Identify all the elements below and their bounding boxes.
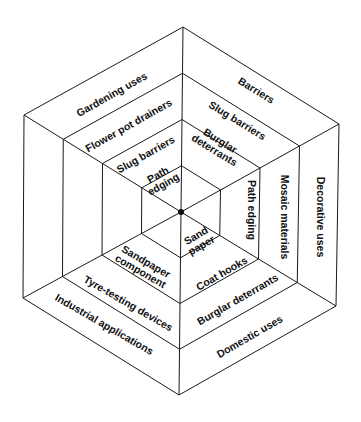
label-domestic-uses: Domestic uses	[214, 312, 284, 360]
label-decorative-uses: Decorative uses	[315, 177, 327, 258]
label-burglar-deterrants-top: Burglardeterrants	[190, 122, 246, 169]
hexagon-uses-diagram: Gardening usesFlower pot drainersSlug ba…	[0, 0, 361, 422]
label-gardening-uses: Gardening uses	[74, 69, 149, 119]
label-sandpaper-component: Sandpapercomponent	[113, 242, 174, 290]
label-path-edging-right: Path edging	[246, 180, 258, 240]
label-sand-paper: Sandpaper	[180, 223, 216, 257]
label-path-edging-inner: Pathedging	[140, 160, 181, 197]
label-layer: Gardening usesFlower pot drainersSlug ba…	[53, 69, 327, 360]
label-barriers: Barriers	[236, 74, 277, 105]
label-industrial-applications: Industrial applications	[53, 291, 156, 357]
label-coat-hooks: Coat hooks	[194, 253, 250, 292]
label-mosaic-materials: Mosaic materials	[279, 175, 291, 260]
center-dot	[178, 209, 184, 215]
